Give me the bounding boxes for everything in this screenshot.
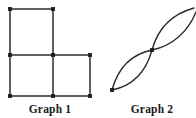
vertex-dot <box>110 88 113 91</box>
graph-1-panel: Graph 1 <box>8 7 91 116</box>
vertex-dot <box>150 48 153 51</box>
vertex-dot <box>88 53 91 56</box>
figure-canvas: Graph 1 Graph 2 <box>0 0 196 118</box>
graph-2-panel: Graph 2 <box>110 8 196 116</box>
vertex-dot <box>51 7 54 10</box>
vertex-dot <box>88 94 91 97</box>
graph-1-vertices <box>8 7 91 97</box>
upper-lens-upper-arc <box>152 8 194 50</box>
vertex-dot <box>8 94 11 97</box>
lower-lens-lower-arc <box>112 50 152 90</box>
graph-1-caption: Graph 1 <box>29 103 72 116</box>
vertex-dot <box>51 94 54 97</box>
vertex-dot <box>8 53 11 56</box>
vertex-dot <box>51 53 54 56</box>
graph-1-edges <box>10 9 90 96</box>
lower-lens-upper-arc <box>112 50 152 90</box>
graph-2-vertices <box>110 48 153 91</box>
vertex-dot <box>8 7 11 10</box>
graph-2-caption: Graph 2 <box>131 103 174 116</box>
figure-container: Graph 1 Graph 2 <box>0 0 196 118</box>
